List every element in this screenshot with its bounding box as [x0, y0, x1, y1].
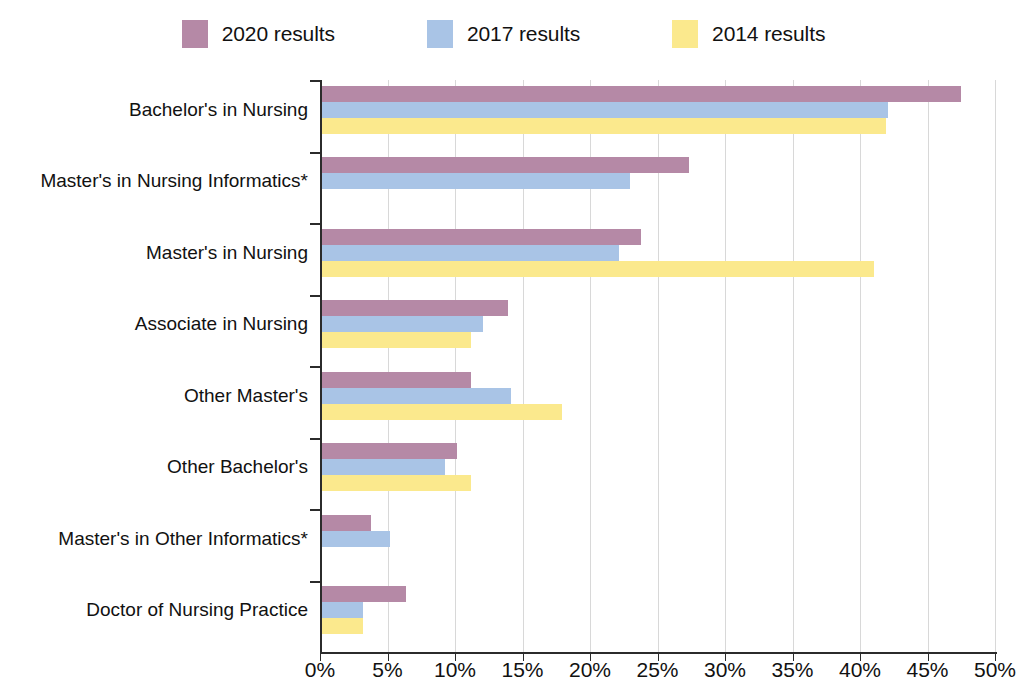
legend-swatch-2017-icon	[427, 20, 453, 48]
bar	[322, 459, 445, 475]
y-axis-category-label: Associate in Nursing	[135, 313, 308, 335]
y-axis-tick	[310, 581, 321, 583]
bar	[322, 586, 406, 602]
chart-legend: 2020 results 2017 results 2014 results	[0, 14, 1007, 54]
y-axis-category-label: Master's in Nursing Informatics*	[40, 170, 308, 192]
bar	[322, 618, 363, 634]
legend-item-2017: 2017 results	[427, 20, 580, 48]
x-axis-tick-label: 5%	[372, 658, 402, 682]
x-axis-tick-label: 15%	[501, 658, 543, 682]
y-axis-category-label: Other Master's	[184, 385, 308, 407]
bar	[322, 388, 511, 404]
bar-group	[322, 366, 997, 438]
x-axis-tick-label: 45%	[906, 658, 948, 682]
bar	[322, 300, 508, 316]
bar	[322, 157, 689, 173]
bar-group	[322, 295, 997, 367]
x-axis-tick-label: 10%	[434, 658, 476, 682]
x-axis-tick-label: 20%	[569, 658, 611, 682]
y-axis-tick	[310, 438, 321, 440]
y-axis-tick	[310, 509, 321, 511]
bar	[322, 118, 886, 134]
x-axis-tick-label: 40%	[839, 658, 881, 682]
legend-swatch-2014-icon	[672, 20, 698, 48]
bar-group	[322, 438, 997, 510]
bar	[322, 86, 961, 102]
legend-item-2014: 2014 results	[672, 20, 825, 48]
y-axis-category-label: Doctor of Nursing Practice	[86, 599, 308, 621]
bar-group	[322, 509, 997, 581]
legend-item-2020: 2020 results	[182, 20, 335, 48]
y-axis-category-label: Master's in Other Informatics*	[58, 528, 308, 550]
x-axis-line	[320, 652, 997, 654]
bar	[322, 372, 471, 388]
y-axis-category-label: Bachelor's in Nursing	[129, 99, 308, 121]
bar	[322, 261, 874, 277]
bar-group	[322, 223, 997, 295]
bar	[322, 531, 390, 547]
bar-group	[322, 80, 997, 152]
y-axis-category-label: Master's in Nursing	[146, 242, 308, 264]
x-axis-tick-label: 50%	[974, 658, 1016, 682]
bar	[322, 515, 371, 531]
y-axis-tick	[310, 80, 321, 82]
bar	[322, 102, 888, 118]
bar-group	[322, 581, 997, 653]
bar	[322, 316, 483, 332]
y-axis-tick	[310, 366, 321, 368]
x-axis-tick-labels: 0%5%10%15%20%25%30%35%40%45%50%	[320, 658, 1010, 690]
x-axis-tick-label: 30%	[704, 658, 746, 682]
bar-group	[322, 152, 997, 224]
y-axis-tick	[310, 152, 321, 154]
x-axis-tick-label: 0%	[305, 658, 335, 682]
y-axis-tick	[310, 223, 321, 225]
bar	[322, 173, 630, 189]
legend-swatch-2020-icon	[182, 20, 208, 48]
legend-label-2014: 2014 results	[712, 22, 825, 46]
bar	[322, 443, 457, 459]
legend-label-2017: 2017 results	[467, 22, 580, 46]
bar	[322, 475, 471, 491]
y-axis-category-label: Other Bachelor's	[167, 456, 308, 478]
y-axis-tick	[310, 295, 321, 297]
legend-label-2020: 2020 results	[222, 22, 335, 46]
plot-area	[320, 80, 995, 652]
bar	[322, 229, 641, 245]
x-axis-tick-label: 35%	[771, 658, 813, 682]
x-axis-tick-label: 25%	[636, 658, 678, 682]
bar	[322, 404, 562, 420]
y-axis-category-labels: Bachelor's in NursingMaster's in Nursing…	[0, 80, 320, 652]
bar	[322, 245, 619, 261]
bar	[322, 332, 471, 348]
bar	[322, 602, 363, 618]
